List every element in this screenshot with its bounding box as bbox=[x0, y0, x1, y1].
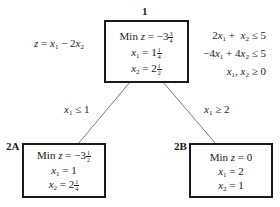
constraint-3: x1, x2 ≥ 0 bbox=[203, 64, 266, 82]
edge-label-2A: x1 ≤ 1 bbox=[64, 103, 89, 117]
node-2B: Min z = 0 x1 = 2 x2 = 1 bbox=[189, 143, 273, 198]
node-1-min-z: Min z = −334 bbox=[106, 30, 187, 44]
constraints: 2x1 + x2 ≤ 5 −4x1 + 4x2 ≤ 5 x1, x2 ≥ 0 bbox=[203, 28, 266, 82]
node-2A-id: 2A bbox=[6, 140, 19, 152]
constraint-1: 2x1 + x2 ≤ 5 bbox=[203, 28, 266, 46]
edge-label-2B: x1 ≥ 2 bbox=[204, 103, 229, 117]
node-2B-x2: x2 = 1 bbox=[191, 179, 271, 196]
node-1-x2: x2 = 212 bbox=[106, 62, 187, 79]
node-1: Min z = −334 x1 = 114 x2 = 212 bbox=[104, 20, 189, 83]
constraint-2: −4x1 + 4x2 ≤ 5 bbox=[203, 46, 266, 64]
node-1-id: 1 bbox=[142, 5, 148, 17]
node-2A-min-z: Min z = −312 bbox=[24, 149, 104, 163]
node-2B-min-z: Min z = 0 bbox=[191, 151, 271, 164]
node-2A-x2: x2 = 214 bbox=[24, 178, 104, 195]
node-2B-id: 2B bbox=[174, 140, 187, 152]
node-1-x1: x1 = 114 bbox=[106, 46, 187, 63]
node-2A: Min z = −312 x1 = 1 x2 = 214 bbox=[22, 143, 106, 198]
objective-function: z = x1 − 2x2 bbox=[34, 37, 84, 51]
